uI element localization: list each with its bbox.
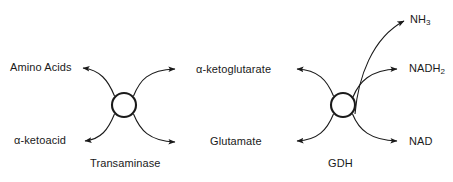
label-nh3: NH3 — [410, 13, 431, 27]
diagram-canvas — [0, 0, 453, 182]
label-nh3-base: NH — [410, 13, 426, 25]
label-nh3-subscript: 3 — [426, 18, 431, 27]
reaction-diagram: Amino Acids α-ketoacid α-ketoglutarate G… — [0, 0, 453, 182]
gdh-node-circle — [331, 93, 355, 117]
arrow-to-glutamate — [134, 114, 176, 142]
label-nad: NAD — [409, 135, 433, 149]
transaminase-node-circle — [112, 93, 136, 117]
arrow-to-nh3 — [355, 21, 404, 114]
label-glutamate: Glutamate — [210, 135, 262, 147]
arrow-to-ketoacid — [85, 114, 115, 141]
label-nad-base: NAD — [409, 135, 433, 147]
arrow-to-ketoglutarate — [134, 69, 176, 96]
arrow-to-nad — [353, 114, 398, 141]
label-nadh2-subscript: 2 — [441, 67, 446, 76]
label-enzyme-gdh: GDH — [328, 157, 353, 169]
label-ketoacid: α-ketoacid — [14, 134, 66, 146]
gdh-reaction-group — [297, 21, 404, 141]
arrow-to-amino-acids — [83, 68, 115, 96]
label-enzyme-transaminase: Transaminase — [90, 157, 161, 169]
label-nadh2: NADH2 — [409, 62, 445, 76]
transaminase-reaction-group — [83, 68, 175, 142]
arrow-to-nadh2 — [353, 69, 397, 97]
arrow-gdh-in-bottom — [297, 114, 334, 141]
arrow-gdh-in-top — [297, 69, 334, 96]
label-ketoglutarate: α-ketoglutarate — [196, 63, 271, 75]
label-amino-acids: Amino Acids — [10, 61, 72, 73]
label-nadh2-base: NADH — [409, 62, 441, 74]
